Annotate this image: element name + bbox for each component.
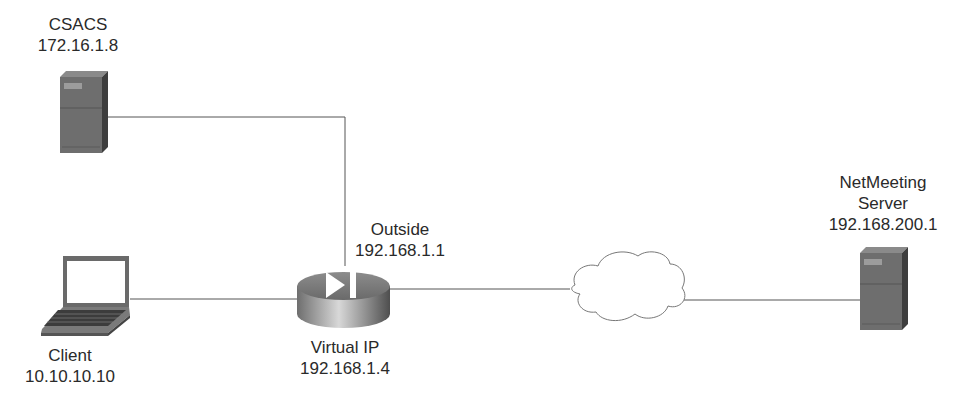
router-icon [297,272,390,328]
links [108,117,861,300]
internet-cloud-icon [572,252,685,321]
netmeeting-server-icon [860,247,908,330]
client-ip: 10.10.10.10 [20,366,120,387]
link-csacs-router [108,117,345,266]
virtual-ip-label: Virtual IP [290,337,400,358]
csacs-server-icon [60,71,108,153]
netmeeting-label: NetMeeting Server 192.168.200.1 [818,172,948,235]
client-laptop-icon [41,256,130,336]
router-virtual-ip-label: Virtual IP 192.168.1.4 [290,337,400,379]
network-diagram: CSACS 172.16.1.8 Client 10.10.10.10 Outs… [0,0,974,397]
csacs-name: CSACS [28,14,128,35]
outside-label: Outside [350,219,450,240]
netmeeting-ip: 192.168.200.1 [818,214,948,235]
csacs-label: CSACS 172.16.1.8 [28,14,128,56]
router-outside-label: Outside 192.168.1.1 [350,219,450,261]
outside-ip: 192.168.1.1 [350,240,450,261]
netmeeting-name-line1: NetMeeting [818,172,948,193]
client-label: Client 10.10.10.10 [20,345,120,387]
pause-bar-icon [350,272,356,298]
client-name: Client [20,345,120,366]
csacs-ip: 172.16.1.8 [28,35,128,56]
netmeeting-name-line2: Server [818,193,948,214]
virtual-ip: 192.168.1.4 [290,358,400,379]
